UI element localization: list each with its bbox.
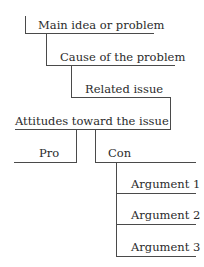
node-argument-3: Argument 3 [131,241,200,254]
related-connector-vertical [71,65,72,98]
argument-1-underline [116,193,196,194]
node-argument-2: Argument 2 [131,209,200,222]
con-underline [95,162,196,163]
cause-connector-vertical [46,33,47,66]
con-connector-vertical [95,129,96,163]
node-attitudes: Attitudes toward the issue [15,115,169,128]
node-pro: Pro [39,147,59,160]
node-argument-1: Argument 1 [131,178,200,191]
main-connector-vertical [25,16,26,34]
argument-2-underline [116,224,196,225]
attitudes-connector-vertical [170,97,171,130]
related-underline [71,97,171,98]
argument-3-underline [116,256,196,257]
arguments-connector-vertical [116,162,117,257]
node-con: Con [108,147,131,160]
node-main-idea: Main idea or problem [38,19,164,32]
pro-underline [14,162,77,163]
pro-connector-vertical [76,129,77,163]
attitudes-underline [15,129,171,130]
main-underline [25,33,154,34]
node-cause: Cause of the problem [60,51,185,64]
node-related-issue: Related issue [85,83,163,96]
cause-underline [46,65,175,66]
argument-outline-diagram: Main idea or problem Cause of the proble… [0,0,204,267]
